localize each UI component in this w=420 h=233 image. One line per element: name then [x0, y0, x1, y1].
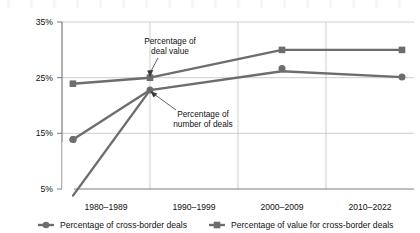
y-tick-label-25: 25% — [36, 73, 54, 83]
legend-label-0: Percentage of cross-border deals — [60, 220, 187, 230]
annotation-deal-value-line-2: deal value — [151, 46, 189, 56]
x-tick-label-2: 2000–2009 — [260, 202, 303, 212]
annotation-number-of-deals-arrowhead — [150, 91, 157, 97]
x-tick-label-1: 1990–1999 — [172, 202, 215, 212]
chart-container: 35% 25% 15% 5% Percentage of — [0, 0, 420, 233]
annotation-number-of-deals-leader — [154, 94, 176, 110]
axes — [57, 22, 414, 189]
series-cross-border-deals — [70, 65, 406, 196]
x-axis-tick-labels: 1980–1989 1990–1999 2000–2009 2010–2022 — [84, 202, 391, 212]
y-tick-label-15: 15% — [36, 128, 54, 138]
legend-square-marker-icon — [214, 222, 221, 229]
y-tick-label-35: 35% — [36, 17, 54, 27]
chart-legend: Percentage of cross-border deals Percent… — [38, 220, 393, 230]
legend-item-cross-border-deals[interactable]: Percentage of cross-border deals — [38, 220, 187, 230]
legend-item-value-for-cross-border-deals[interactable]: Percentage of value for cross-border dea… — [209, 220, 393, 230]
annotation-deal-value-line-1: Percentage of — [144, 36, 196, 46]
y-axis-tick-labels: 35% 25% 15% 5% — [36, 17, 54, 194]
y-tick-label-5: 5% — [41, 184, 54, 194]
series-value-marker-3 — [399, 47, 406, 54]
plot-mask — [62, 142, 74, 190]
series-deals-marker-0-top — [70, 136, 77, 143]
x-tick-label-3: 2010–2022 — [348, 202, 391, 212]
annotation-number-of-deals-line-1: Percentage of — [177, 109, 229, 119]
annotation-deal-value: Percentage of deal value — [144, 36, 196, 78]
legend-circle-marker-icon — [43, 222, 50, 229]
series-deals-marker-3 — [399, 74, 406, 81]
series-deals-marker-2 — [279, 65, 286, 72]
line-chart: 35% 25% 15% 5% Percentage of — [0, 0, 420, 233]
series-deals-seg-0 — [73, 90, 150, 139]
annotation-number-of-deals: Percentage of number of deals — [150, 91, 232, 129]
annotation-number-of-deals-line-2: number of deals — [173, 119, 233, 129]
series-value-for-cross-border-deals — [70, 47, 406, 87]
x-tick-label-0: 1980–1989 — [84, 202, 127, 212]
series-value-marker-0 — [70, 80, 77, 87]
vertical-gridlines — [62, 22, 326, 189]
series-value-marker-2 — [279, 47, 286, 54]
legend-label-1: Percentage of value for cross-border dea… — [231, 220, 393, 230]
